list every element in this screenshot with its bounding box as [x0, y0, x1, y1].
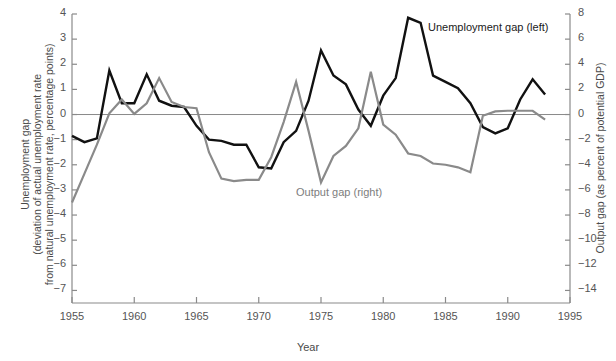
- chart-figure: Unemployment gap (deviation of actual un…: [0, 0, 616, 361]
- x-tick-label: 1955: [47, 310, 97, 322]
- y-tick-label-left: 0: [24, 107, 66, 119]
- x-tick-label: 1970: [234, 310, 284, 322]
- y-tick-label-left: −1: [24, 132, 66, 144]
- y-tick-label-right: 2: [578, 81, 616, 93]
- y-tick-label-left: −4: [24, 207, 66, 219]
- y-tick-label-left: 1: [24, 81, 66, 93]
- series-annotation-output: Output gap (right): [296, 186, 382, 198]
- y-tick-label-left: 2: [24, 56, 66, 68]
- y-tick-label-left: −7: [24, 282, 66, 294]
- y-tick-label-right: −4: [578, 157, 616, 169]
- y-tick-label-right: 0: [578, 107, 616, 119]
- x-tick-label: 1965: [172, 310, 222, 322]
- series-line-output-gap: [72, 72, 545, 203]
- x-tick-label: 1975: [296, 310, 346, 322]
- series-line-unemployment-gap: [72, 18, 545, 169]
- y-tick-label-right: −10: [578, 232, 616, 244]
- y-tick-label-left: −5: [24, 232, 66, 244]
- x-tick-label: 1990: [483, 310, 533, 322]
- y-tick-label-right: 4: [578, 56, 616, 68]
- y-tick-label-right: −6: [578, 182, 616, 194]
- x-tick-label: 1985: [421, 310, 471, 322]
- x-tick-label: 1995: [545, 310, 595, 322]
- y-tick-label-right: −2: [578, 132, 616, 144]
- y-tick-label-left: −2: [24, 157, 66, 169]
- series-annotation-unemployment: Unemployment gap (left): [428, 21, 548, 33]
- y-tick-label-right: −8: [578, 207, 616, 219]
- y-tick-label-right: 8: [578, 6, 616, 18]
- y-tick-label-left: −6: [24, 257, 66, 269]
- y-tick-label-left: 4: [24, 6, 66, 18]
- y-tick-label-left: 3: [24, 31, 66, 43]
- plot-area: [0, 0, 616, 361]
- x-tick-label: 1980: [358, 310, 408, 322]
- y-tick-label-left: −3: [24, 182, 66, 194]
- y-tick-label-right: 6: [578, 31, 616, 43]
- y-tick-label-right: −12: [578, 257, 616, 269]
- x-tick-label: 1960: [109, 310, 159, 322]
- y-tick-label-right: −14: [578, 282, 616, 294]
